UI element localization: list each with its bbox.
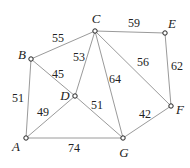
node-label-d: D [59,88,70,103]
edge-c-e [95,31,165,33]
weight-label-a-d: 49 [37,105,49,119]
weight-label-c-d: 53 [73,50,85,64]
weight-label-a-g: 74 [68,141,80,155]
weight-label-d-g: 51 [91,98,103,112]
node-label-a: A [11,139,20,154]
weight-label-e-f: 62 [171,59,183,73]
node-f-vertex-icon [169,104,173,108]
edge-c-f [95,31,171,106]
weight-label-c-e: 59 [128,16,140,30]
node-c-vertex-icon [93,29,97,33]
weight-labels-layer: 514974554553645159566242 [12,16,183,155]
weight-label-c-g: 64 [109,72,121,86]
node-d-vertex-icon [73,94,77,98]
weight-label-a-b: 51 [12,91,24,105]
node-label-f: F [175,102,185,117]
edge-a-b [26,59,31,138]
edges-layer [26,31,171,138]
weighted-graph: 514974554553645159566242 ABCDEFG [0,0,190,168]
node-g-vertex-icon [121,136,125,140]
node-e-vertex-icon [163,31,167,35]
node-label-b: B [18,47,26,62]
node-a-vertex-icon [24,136,28,140]
node-label-e: E [167,16,176,31]
weight-label-c-f: 56 [137,55,149,69]
node-b-vertex-icon [29,57,33,61]
node-label-g: G [119,145,129,160]
weight-label-b-d: 45 [52,67,64,81]
weight-label-g-f: 42 [139,107,151,121]
weight-label-b-c: 55 [52,31,64,45]
node-label-c: C [92,11,101,26]
